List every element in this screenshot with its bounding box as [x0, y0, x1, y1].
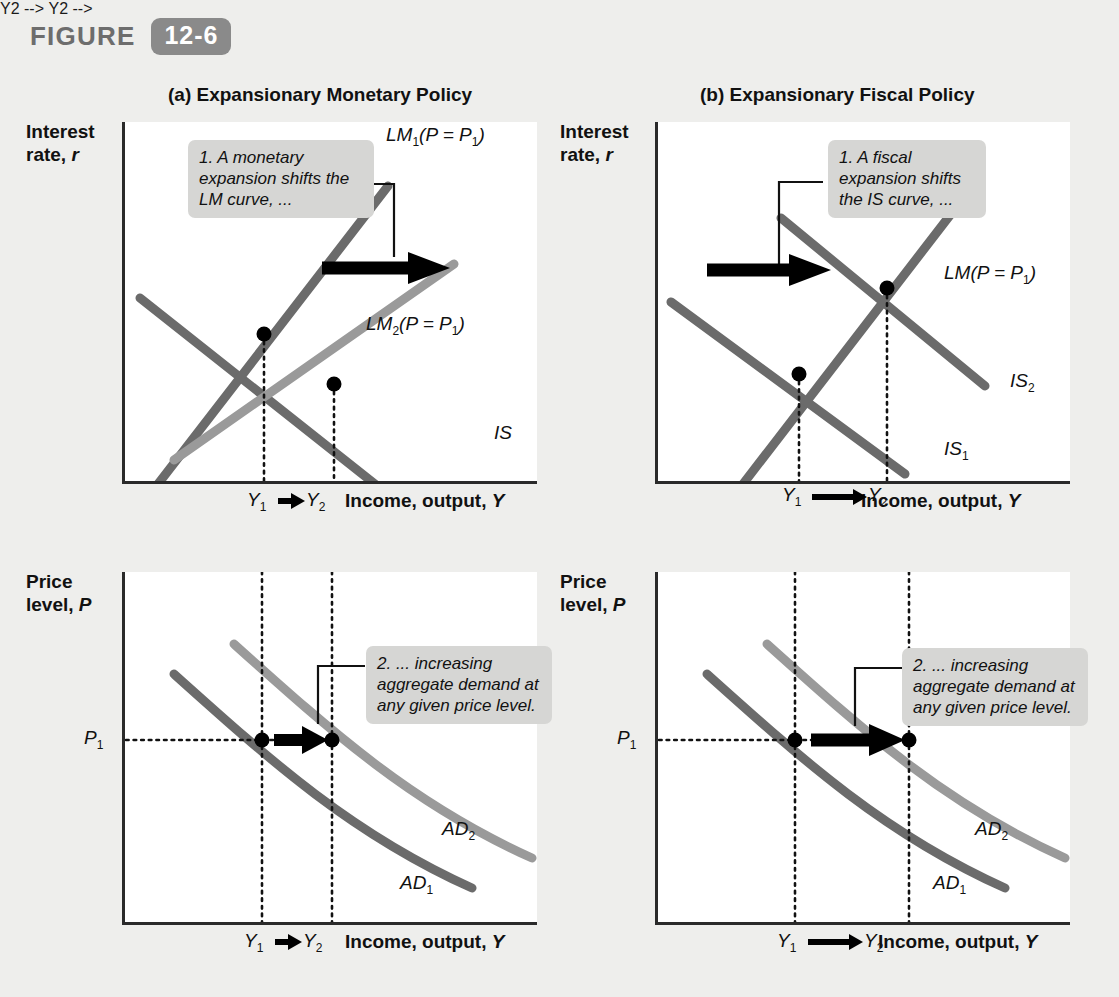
y-axis-label-b-top: Interest rate, r — [560, 120, 629, 166]
tick-label-y1-b-top: Y1 — [782, 484, 801, 509]
equilibrium-dot-2 — [880, 281, 895, 296]
curve-is1 — [671, 302, 905, 474]
panel-a-title: (a) Expansionary Monetary Policy — [168, 84, 472, 106]
x-axis-label-b-bottom: Income, output, Y — [878, 930, 1037, 953]
shift-arrow — [274, 726, 328, 754]
curve-label-lm: LM(P = P1) — [944, 262, 1036, 287]
y-axis-label-line2: level, P — [26, 594, 92, 615]
curve-is2 — [781, 218, 985, 386]
curve-label-lm1: LM1(P = P1) — [386, 124, 485, 149]
tick-arrow-a-bottom — [275, 933, 303, 951]
curve-label-is: IS — [494, 422, 512, 444]
curve-label-ad1-a: AD1 — [400, 872, 433, 897]
y-axis-label-line1: Interest — [560, 121, 629, 142]
tick-label-p1-a-bottom: P1 — [84, 727, 103, 752]
equilibrium-dot-1 — [257, 327, 272, 342]
tick-label-y2-a-bottom: Y2 — [303, 930, 322, 955]
plot-a-bottom-svg — [122, 572, 537, 925]
callout-leader-line — [318, 666, 365, 724]
equilibrium-dot-1 — [792, 367, 807, 382]
equilibrium-dot-1 — [255, 733, 270, 748]
y-axis-label-line1: Price — [26, 571, 72, 592]
x-axis-label-a-top: Income, output, Y — [345, 489, 504, 512]
tick-label-y2-b-bottom: Y2 — [864, 930, 883, 955]
tick-label-y1-b-bottom: Y1 — [777, 930, 796, 955]
figure-header: FIGURE 12-6 — [30, 18, 231, 55]
y-axis-label-line2: rate, r — [26, 144, 79, 165]
y-axis-label-a-top: Interest rate, r — [26, 120, 95, 166]
tick-label-y1-a-top: Y1 — [247, 489, 266, 514]
plot-b-bottom — [655, 572, 1070, 925]
curve-label-is2: IS2 — [1010, 370, 1035, 395]
tick-arrow-b-bottom — [808, 933, 864, 951]
figure-page: FIGURE 12-6 (a) Expansionary Monetary Po… — [0, 0, 1119, 997]
tick-arrow-b-top — [812, 488, 868, 506]
curve-label-ad2-a: AD2 — [442, 818, 475, 843]
y-axis-label-b-bottom: Price level, P — [560, 570, 626, 616]
y-axis-label-a-bottom: Price level, P — [26, 570, 92, 616]
plot-b-bottom-svg — [655, 572, 1070, 925]
plot-a-bottom — [122, 572, 537, 925]
tick-label-y2-a-top: Y2 — [306, 489, 325, 514]
callout-a-bottom: 2. ... increasing aggregate demand at an… — [366, 646, 552, 724]
figure-word: FIGURE — [30, 21, 135, 52]
x-axis-label-a-bottom: Income, output, Y — [345, 930, 504, 953]
curve-label-ad2-b: AD2 — [975, 818, 1008, 843]
tick-label-y1-a-bottom: Y1 — [244, 930, 263, 955]
figure-number-badge: 12-6 — [151, 18, 231, 55]
callout-b-top: 1. A fiscal expansion shifts the IS curv… — [828, 140, 986, 218]
curve-label-is1: IS1 — [944, 438, 969, 463]
tick-label-y2-b-top: Y2 — [868, 484, 887, 509]
y-axis-label-line1: Price — [560, 571, 606, 592]
tick-label-p1-b-bottom: P1 — [617, 727, 636, 752]
shift-arrow — [707, 254, 831, 286]
equilibrium-dot-2 — [327, 377, 342, 392]
callout-a-top: 1. A monetary expansion shifts the LM cu… — [188, 140, 374, 218]
y-axis-label-line1: Interest — [26, 121, 95, 142]
panel-b-title: (b) Expansionary Fiscal Policy — [700, 84, 975, 106]
curve-lm — [743, 214, 951, 484]
callout-b-bottom: 2. ... increasing aggregate demand at an… — [902, 648, 1088, 726]
y-axis-label-line2: level, P — [560, 594, 626, 615]
tick-arrow-a-top — [278, 492, 306, 510]
curve-label-lm2: LM2(P = P1) — [366, 313, 465, 338]
equilibrium-dot-1 — [788, 733, 803, 748]
curve-label-ad1-b: AD1 — [933, 872, 966, 897]
y-axis-label-line2: rate, r — [560, 144, 613, 165]
